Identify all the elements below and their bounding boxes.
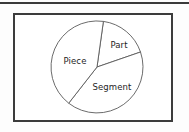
- pie-chart-figure: Piece Part Segment: [0, 0, 189, 132]
- pie-chart-graphic: [0, 0, 189, 132]
- pie-label-part: Part: [110, 40, 127, 50]
- pie-label-piece: Piece: [64, 56, 87, 66]
- pie-label-segment: Segment: [93, 82, 132, 92]
